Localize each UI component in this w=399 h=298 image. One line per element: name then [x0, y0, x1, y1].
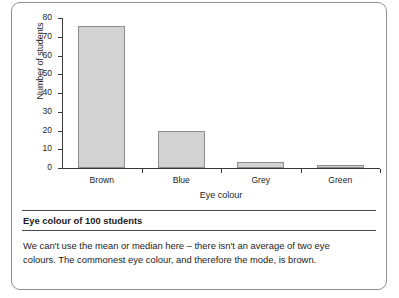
figure-root: Number of students 01020304050607080 Bro… — [0, 0, 399, 298]
explanation-text: We can't use the mean or median here – t… — [22, 231, 376, 266]
y-tick-label-0: 0 — [47, 162, 52, 172]
caption-block: Eye colour of 100 students We can't use … — [22, 210, 376, 266]
x-axis-title: Eye colour — [62, 190, 380, 200]
y-tick-label-30: 30 — [43, 106, 52, 116]
y-tick-label-20: 20 — [43, 125, 52, 135]
y-tick-label-10: 10 — [43, 143, 52, 153]
y-tick-0: 0 — [58, 168, 62, 169]
bars-layer — [62, 18, 380, 168]
bar-chart: Number of students 01020304050607080 Bro… — [18, 8, 382, 204]
bar-grey — [237, 162, 284, 168]
bar-green — [317, 165, 364, 168]
x-label-green: Green — [328, 175, 352, 185]
x-label-brown: Brown — [90, 175, 114, 185]
y-axis-title: Number of students — [35, 6, 45, 116]
x-tick-boundary-4 — [380, 169, 381, 173]
explanation-line-1: We can't use the mean or median here – t… — [23, 239, 375, 253]
y-tick-label-60: 60 — [43, 50, 52, 60]
y-tick-label-80: 80 — [43, 12, 52, 22]
x-tick-boundary-2 — [221, 169, 222, 173]
explanation-line-2: colours. The commonest eye colour, and t… — [23, 253, 375, 267]
y-tick-label-40: 40 — [43, 87, 52, 97]
bar-blue — [158, 131, 205, 169]
x-label-blue: Blue — [173, 175, 190, 185]
x-tick-boundary-1 — [142, 169, 143, 173]
x-label-grey: Grey — [251, 175, 270, 185]
bar-brown — [78, 26, 125, 169]
x-tick-boundary-3 — [301, 169, 302, 173]
caption-title: Eye colour of 100 students — [22, 211, 376, 230]
y-tick-label-50: 50 — [43, 68, 52, 78]
y-tick-label-70: 70 — [43, 31, 52, 41]
plot-region: 01020304050607080 BrownBlueGreyGreen Eye… — [62, 8, 380, 170]
